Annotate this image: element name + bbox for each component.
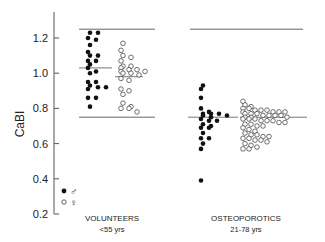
- data-point: [249, 122, 254, 127]
- data-point: [88, 53, 93, 58]
- data-point: [127, 78, 132, 83]
- data-point: [201, 131, 206, 136]
- data-point: [199, 147, 204, 152]
- y-tick-label: 0.4: [33, 173, 48, 185]
- data-point: [143, 69, 148, 74]
- y-axis-label: CaBI: [13, 111, 27, 138]
- data-point: [199, 125, 204, 130]
- data-point: [207, 118, 212, 123]
- data-point: [283, 110, 288, 115]
- data-point: [199, 106, 204, 111]
- data-point: [119, 76, 124, 81]
- data-point: [271, 118, 276, 123]
- data-point: [247, 117, 252, 122]
- data-point: [104, 85, 109, 90]
- legend-male-marker: [62, 189, 67, 194]
- y-tick-label: 0.2: [33, 208, 48, 220]
- data-point: [255, 133, 260, 138]
- data-point: [279, 113, 284, 118]
- data-point: [199, 87, 204, 92]
- data-point: [247, 147, 252, 152]
- category-label-volunteers: VOLUNTEERS: [85, 214, 139, 223]
- data-point: [261, 124, 266, 129]
- data-point: [255, 111, 260, 116]
- data-point: [94, 96, 99, 101]
- reference-lines: [79, 29, 303, 117]
- data-point: [243, 131, 248, 136]
- data-point: [135, 67, 140, 72]
- data-point: [94, 59, 99, 64]
- data-point: [273, 113, 278, 118]
- legend: ♂ ♀: [62, 186, 78, 208]
- data-point: [94, 69, 99, 74]
- data-point: [88, 71, 93, 76]
- data-point: [88, 30, 93, 35]
- data-point: [96, 85, 101, 90]
- data-point: [285, 115, 290, 120]
- legend-male-label: ♂: [70, 186, 78, 197]
- data-point: [121, 71, 126, 76]
- data-point: [265, 118, 270, 123]
- data-point: [121, 53, 126, 58]
- data-point: [86, 66, 91, 71]
- data-point: [127, 106, 132, 111]
- data-point: [86, 87, 91, 92]
- data-point: [283, 120, 288, 125]
- y-axis: 0.20.40.60.81.01.2: [33, 12, 59, 220]
- data-point: [94, 37, 99, 42]
- data-point: [241, 136, 246, 141]
- y-tick-label: 0.8: [33, 102, 48, 114]
- data-point: [241, 117, 246, 122]
- data-point: [217, 111, 222, 116]
- cabi-scatter-chart: 0.20.40.60.81.01.2 CaBI ♂ ♀ VOLUNTEERS <…: [0, 0, 325, 242]
- data-point: [261, 113, 266, 118]
- data-point: [241, 147, 246, 152]
- data-point: [199, 117, 204, 122]
- data-point: [121, 101, 126, 106]
- data-point: [94, 80, 99, 85]
- data-point: [121, 41, 126, 46]
- data-point: [129, 55, 134, 60]
- data-point: [207, 136, 212, 141]
- data-point: [86, 96, 91, 101]
- data-point: [253, 138, 258, 143]
- data-point: [96, 30, 101, 35]
- category-label-osteoporotics: OSTEOPOROTICS: [211, 214, 281, 223]
- data-point: [265, 108, 270, 113]
- data-point: [137, 73, 142, 78]
- data-point: [127, 89, 132, 94]
- data-point: [86, 36, 91, 41]
- data-point: [119, 106, 124, 111]
- data-point: [265, 140, 270, 145]
- y-tick-label: 1.2: [33, 32, 48, 44]
- data-point: [199, 96, 204, 101]
- data-point: [96, 53, 101, 58]
- category-sublabel-volunteers: <55 yrs: [100, 225, 125, 234]
- data-point: [135, 110, 140, 115]
- category-sublabel-osteoporotics: 21-78 yrs: [230, 225, 262, 234]
- data-points: [79, 30, 307, 182]
- data-point: [199, 178, 204, 183]
- data-point: [259, 118, 264, 123]
- legend-female-marker: [62, 200, 66, 204]
- data-point: [247, 127, 252, 132]
- data-point: [88, 43, 93, 48]
- data-point: [225, 113, 230, 118]
- data-point: [277, 120, 282, 125]
- data-point: [259, 138, 264, 143]
- data-point: [247, 136, 252, 141]
- data-point: [207, 125, 212, 130]
- data-point: [199, 136, 204, 141]
- data-point: [215, 118, 220, 123]
- data-point: [121, 92, 126, 97]
- data-point: [267, 113, 272, 118]
- data-point: [119, 48, 124, 53]
- data-point: [88, 104, 93, 109]
- data-point: [241, 125, 246, 130]
- y-tick-label: 1.0: [33, 67, 48, 79]
- legend-female-label: ♀: [70, 197, 78, 208]
- data-point: [119, 59, 124, 64]
- data-point: [243, 141, 248, 146]
- data-point: [255, 124, 260, 129]
- data-point: [247, 106, 252, 111]
